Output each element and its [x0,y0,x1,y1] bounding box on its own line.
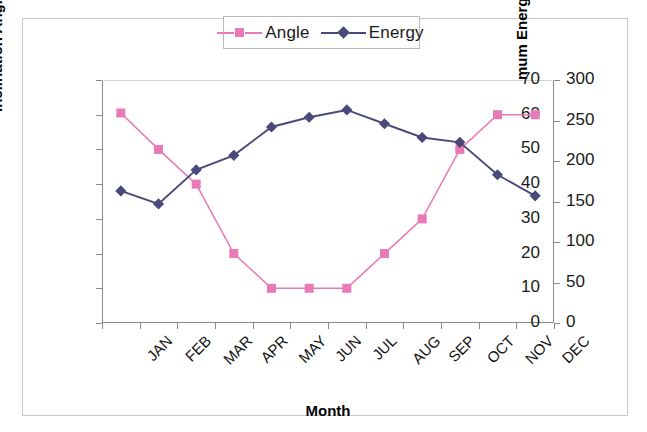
data-point-marker [305,284,314,293]
y-axis-right-tick-label: 250 [566,110,594,130]
data-point-marker [115,185,126,196]
legend-label-energy: Energy [367,23,426,43]
data-point-marker [417,132,428,143]
data-point-marker [192,180,201,189]
data-point-marker [229,249,238,258]
x-axis-tick [290,323,291,329]
y-axis-right-tick [554,283,560,284]
y-axis-right-tick [554,121,560,122]
y-axis-right-tick [554,80,560,81]
data-point-marker [493,110,502,119]
data-point-marker [418,214,427,223]
legend-item-energy: Energy [321,23,426,43]
series-line-energy [121,110,535,204]
data-point-marker [380,249,389,258]
chart-legend: Angle Energy [223,16,420,49]
y-axis-right-tick [554,242,560,243]
data-point-marker [341,104,352,115]
plot-area: 010203040506070 050100150200250300 JANFE… [102,80,554,323]
data-point-marker [304,112,315,123]
square-marker-icon [235,28,244,37]
data-point-marker [267,284,276,293]
legend-item-angle: Angle [217,23,311,43]
data-point-marker [531,110,540,119]
x-axis-tick [215,323,216,329]
legend-line-energy-2 [349,32,366,34]
x-axis-tick [253,323,254,329]
x-axis-tick [328,323,329,329]
x-axis-tick [516,323,517,329]
data-point-marker [530,190,541,201]
legend-line-angle [217,32,234,34]
x-axis-tick [554,323,555,329]
y-axis-right-tick-label: 0 [566,312,575,332]
data-point-marker [379,118,390,129]
y-axis-right-tick-label: 300 [566,69,594,89]
x-axis-tick [102,323,103,329]
y-axis-right-tick-label: 200 [566,150,594,170]
chart-figure: Angle Energy Inclination Angle Optimum E… [0,0,647,432]
data-point-marker [116,108,125,117]
x-axis-tick [366,323,367,329]
y-axis-right-tick [554,161,560,162]
y-axis-left-title: Inclination Angle [0,0,5,112]
x-axis-tick [479,323,480,329]
x-axis-title: Month [102,402,554,419]
x-axis-tick [403,323,404,329]
diamond-marker-icon [337,26,350,39]
y-axis-right-tick-label: 100 [566,231,594,251]
legend-line-energy [321,32,338,34]
data-point-marker [154,145,163,154]
legend-line-angle-2 [245,32,262,34]
series-line-angle [121,113,535,288]
data-point-marker [342,284,351,293]
x-axis-tick [177,323,178,329]
legend-label-angle: Angle [263,23,311,43]
y-axis-right-tick-label: 150 [566,191,594,211]
x-axis-tick [441,323,442,329]
y-axis-right-tick [554,202,560,203]
data-series-layer [102,80,554,323]
y-axis-right-tick-label: 50 [566,272,585,292]
x-axis-tick [140,323,141,329]
